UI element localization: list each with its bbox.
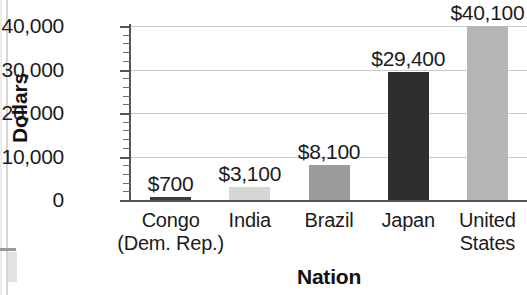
y-major-tick-10000 <box>120 157 131 159</box>
category-label-line2-4: States <box>417 232 527 255</box>
bar-value-label-2: $8,100 <box>259 141 399 162</box>
y-minor-tick-28000 <box>123 78 131 79</box>
y-minor-tick-34000 <box>123 52 131 53</box>
scan-artifact-corner-mark <box>0 248 16 251</box>
y-minor-tick-12000 <box>123 148 131 149</box>
y-major-tick-20000 <box>120 113 131 115</box>
x-axis-baseline <box>126 200 527 202</box>
y-major-tick-30000 <box>120 70 131 72</box>
y-minor-tick-38000 <box>123 35 131 36</box>
y-minor-tick-8000 <box>123 165 131 166</box>
bar-japan[interactable] <box>388 72 429 200</box>
category-label-line2-0: (Dem. Rep.) <box>101 232 241 255</box>
y-minor-tick-22000 <box>123 104 131 105</box>
bar-chart-figure: 010,00020,00030,00040,000 $700$3,100$8,1… <box>0 0 527 295</box>
y-minor-tick-24000 <box>123 96 131 97</box>
y-major-tick-0 <box>120 200 131 202</box>
x-axis-title: Nation <box>131 265 527 289</box>
bar-value-label-1: $3,100 <box>180 163 320 184</box>
y-major-tick-40000 <box>120 26 131 28</box>
bar-value-label-3: $29,400 <box>338 48 478 69</box>
y-minor-tick-18000 <box>123 122 131 123</box>
scan-artifact-corner-smudge <box>8 252 17 282</box>
y-minor-tick-32000 <box>123 61 131 62</box>
y-minor-tick-36000 <box>123 43 131 44</box>
y-minor-tick-26000 <box>123 87 131 88</box>
category-label-4: UnitedStates <box>417 209 527 255</box>
y-tick-label-40000: 40,000 <box>0 15 64 36</box>
y-tick-label-0: 0 <box>0 189 64 210</box>
bar-value-label-4: $40,100 <box>417 2 527 23</box>
y-minor-tick-14000 <box>123 139 131 140</box>
y-axis-title: Dollars <box>8 53 32 163</box>
y-minor-tick-16000 <box>123 130 131 131</box>
category-label-line1-4: United <box>417 209 527 232</box>
